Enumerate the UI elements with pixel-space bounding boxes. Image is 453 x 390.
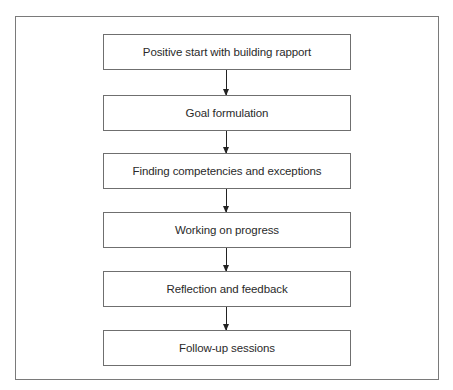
step-label: Finding competencies and exceptions <box>133 165 322 177</box>
step-label: Reflection and feedback <box>166 283 287 295</box>
step-label: Follow-up sessions <box>179 342 275 354</box>
flow-step-progress: Working on progress <box>103 212 351 248</box>
flow-step-reflection: Reflection and feedback <box>103 271 351 307</box>
step-label: Goal formulation <box>186 107 269 119</box>
arrow-down-icon <box>226 189 227 212</box>
flow-step-competencies: Finding competencies and exceptions <box>103 153 351 189</box>
flow-step-rapport: Positive start with building rapport <box>103 34 351 70</box>
arrow-down-icon <box>226 307 227 330</box>
arrow-down-icon <box>226 70 227 95</box>
step-label: Positive start with building rapport <box>143 46 311 58</box>
flow-step-goal: Goal formulation <box>103 95 351 131</box>
arrow-down-icon <box>226 131 227 153</box>
flow-step-follow-up: Follow-up sessions <box>103 330 351 366</box>
arrow-down-icon <box>226 248 227 271</box>
step-label: Working on progress <box>175 224 279 236</box>
